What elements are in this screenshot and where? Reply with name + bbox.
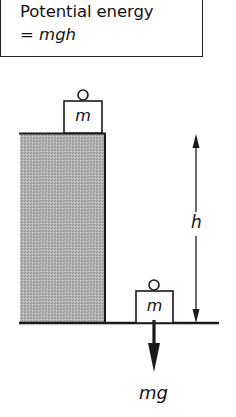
height-label: h [191, 214, 202, 231]
mass-top-label: m [64, 108, 102, 124]
mass-top-ring-icon [78, 90, 88, 100]
mass-bottom-ring-icon [149, 280, 159, 290]
raised-block [19, 133, 106, 323]
weight-arrow [148, 320, 160, 372]
arrow-up-icon [193, 134, 200, 148]
arrow-down-icon [193, 309, 200, 323]
mass-bottom-label: m [136, 298, 173, 314]
potential-energy-diagram [0, 0, 236, 417]
weight-label: mg [139, 384, 168, 402]
arrow-down-icon [148, 343, 160, 372]
